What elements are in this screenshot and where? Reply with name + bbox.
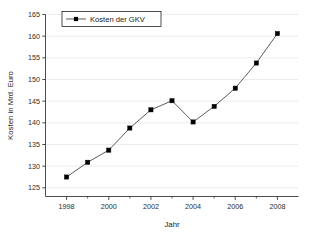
y-tick-label: 135 [28, 140, 40, 149]
y-tick-label: 165 [28, 10, 40, 19]
data-point [149, 108, 153, 112]
y-tick-label: 160 [28, 32, 40, 41]
y-tick-label: 125 [28, 183, 40, 192]
data-point [254, 61, 258, 65]
y-tick-label: 150 [28, 75, 40, 84]
legend-marker-sample [74, 17, 78, 21]
y-tick-label: 130 [28, 162, 40, 171]
axis-lines [46, 15, 299, 197]
x-axis-ticks [67, 197, 278, 200]
x-tick-label: 2002 [143, 202, 159, 211]
series-line-kosten-der-gkv [67, 34, 278, 177]
y-tick-label: 140 [28, 118, 40, 127]
data-point [191, 120, 195, 124]
x-tick-label: 1998 [59, 202, 75, 211]
x-tick-label: 2000 [101, 202, 117, 211]
data-point [170, 99, 174, 103]
line-chart: 125130135140145150155160165 199820002002… [0, 0, 312, 243]
data-point [64, 175, 68, 179]
x-tick-label: 2004 [185, 202, 201, 211]
x-tick-label: 2008 [269, 202, 285, 211]
y-tick-label: 155 [28, 53, 40, 62]
chart-container: 125130135140145150155160165 199820002002… [0, 0, 312, 243]
data-point [233, 86, 237, 90]
data-point [128, 126, 132, 130]
y-axis-title: Kosten in Mrd. Euro [6, 70, 15, 140]
y-tick-label: 145 [28, 97, 40, 106]
x-tick-label: 2006 [227, 202, 243, 211]
legend-label-kosten-der-gkv: Kosten der GKV [90, 15, 146, 24]
x-axis-title: Jahr [164, 220, 180, 229]
data-point [86, 160, 90, 164]
data-point [107, 148, 111, 152]
data-series-group [64, 31, 279, 179]
plot-axes-frame [46, 15, 299, 197]
y-axis-tick-labels: 125130135140145150155160165 [28, 10, 40, 192]
x-axis-tick-labels: 199820002002200420062008 [59, 202, 286, 211]
chart-legend: Kosten der GKV [62, 12, 161, 27]
data-point [275, 31, 279, 35]
y-axis-ticks [42, 15, 45, 188]
data-point [212, 104, 216, 108]
